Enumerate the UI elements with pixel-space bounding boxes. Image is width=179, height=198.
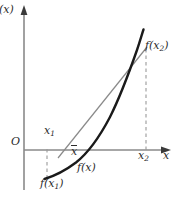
- x2-label-subscript: 2: [144, 154, 149, 163]
- x1-label: x1: [44, 125, 55, 137]
- y-axis-label: '(x): [0, 4, 14, 15]
- origin-label: O: [11, 136, 20, 147]
- fx2-label-prefix: f(x: [145, 39, 160, 52]
- y-axis: [21, 5, 28, 190]
- fx1-label-suffix: ): [59, 177, 63, 190]
- x1-label-subscript: 1: [50, 129, 55, 138]
- xbar-label-base: x: [71, 146, 77, 157]
- chord-line: [58, 47, 147, 158]
- x2-label: x2: [138, 150, 149, 162]
- xbar-label: x: [71, 146, 77, 157]
- fx2-label: f(x2): [145, 40, 169, 52]
- fx1-label-prefix: f(x: [40, 177, 55, 190]
- figure-canvas: '(x) O x1 x x2 x f(x2) f(x) f(x1): [0, 0, 179, 198]
- fx2-label-suffix: ): [164, 39, 168, 52]
- fx1-label: f(x1): [40, 178, 64, 190]
- fx-label: f(x): [77, 162, 96, 173]
- x-axis-label: x: [163, 150, 169, 161]
- y-axis-arrowhead-icon: [21, 5, 28, 15]
